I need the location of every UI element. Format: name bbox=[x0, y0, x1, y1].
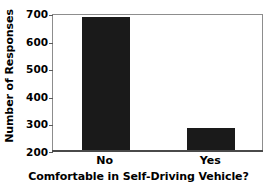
bar-no bbox=[82, 17, 130, 151]
y-axis-tick-label: 300 bbox=[22, 119, 48, 129]
y-axis-tick-mark bbox=[49, 98, 53, 99]
y-axis-tick-label: 600 bbox=[22, 37, 48, 47]
y-axis-tick-mark bbox=[49, 15, 53, 16]
plot-area bbox=[52, 14, 263, 152]
x-axis-tick-labels: NoYes bbox=[52, 154, 263, 168]
y-axis-tick-mark bbox=[49, 43, 53, 44]
y-axis-title: Number of Responses bbox=[3, 0, 17, 152]
y-axis-tick-label: 400 bbox=[22, 92, 48, 102]
bar-chart: Number of Responses 200300400500600700 N… bbox=[0, 0, 277, 189]
y-axis-tick-mark bbox=[49, 152, 53, 153]
y-axis-tick-label: 200 bbox=[22, 147, 48, 157]
x-axis-title: Comfortable in Self-Driving Vehicle? bbox=[0, 170, 277, 183]
y-axis-tick-label: 500 bbox=[22, 64, 48, 74]
x-axis-tick-label: No bbox=[65, 154, 145, 167]
bar-yes bbox=[187, 128, 235, 151]
y-axis-tick-label: 700 bbox=[22, 9, 48, 19]
y-axis-tick-labels: 200300400500600700 bbox=[22, 0, 48, 189]
y-axis-tick-mark bbox=[49, 70, 53, 71]
x-axis-tick-label: Yes bbox=[170, 154, 250, 167]
y-axis-tick-mark bbox=[49, 125, 53, 126]
